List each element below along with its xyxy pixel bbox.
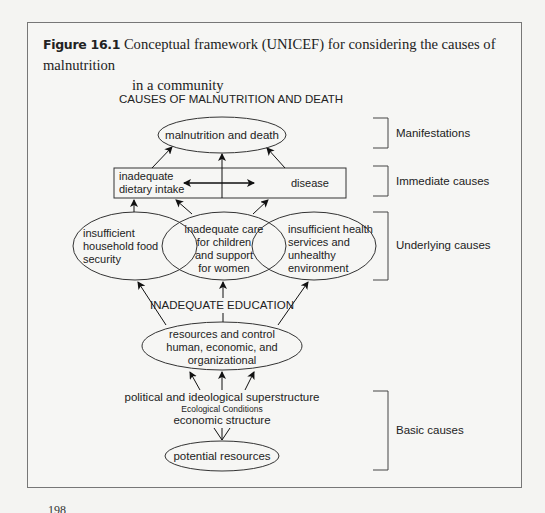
resources-line-2: human, economic, and (166, 341, 277, 353)
arrow-care-to-dietary (176, 200, 192, 214)
level-basic: Basic causes (396, 424, 464, 436)
inadequate-education-label: INADEQUATE EDUCATION (150, 299, 294, 311)
care-line-2: for children (197, 236, 251, 248)
arrow-dietary-to-death (152, 147, 172, 168)
dietary-intake-line1: inadequate (119, 170, 173, 182)
level-immediate: Immediate causes (396, 175, 490, 187)
food-line-2: household food (83, 240, 158, 252)
malnutrition-death-label: malnutrition and death (165, 129, 279, 141)
arrow-potential-left (214, 428, 222, 440)
health-line-2: services and (288, 236, 350, 248)
arrow-potential-right (222, 428, 230, 440)
economic-structure-label: economic structure (173, 414, 270, 426)
bracket-immediate (373, 166, 388, 196)
health-line-3: unhealthy (288, 249, 336, 261)
bracket-underlying (373, 212, 388, 280)
resources-line-3: organizational (188, 354, 257, 366)
health-line-4: environment (288, 262, 349, 274)
disease-label: disease (291, 177, 329, 189)
food-line-1: insufficient (83, 227, 135, 239)
unicef-framework-diagram: CAUSES OF MALNUTRITION AND DEATH malnutr… (0, 0, 545, 513)
bracket-basic (373, 391, 388, 470)
bracket-manifestations (373, 118, 388, 148)
care-line-4: for women (198, 262, 249, 274)
care-line-1: inadequate care (185, 223, 264, 235)
level-underlying: Underlying causes (396, 239, 491, 251)
potential-resources-label: potential resources (173, 450, 270, 462)
dietary-intake-line2: dietary intake (119, 183, 184, 195)
health-line-1: insufficient health (288, 223, 373, 235)
diagram-title: CAUSES OF MALNUTRITION AND DEATH (119, 93, 343, 105)
resources-line-1: resources and control (169, 328, 275, 340)
arrow-super-right (245, 372, 254, 390)
arrow-disease-to-death (267, 148, 285, 168)
care-line-3: and support (195, 249, 253, 261)
food-line-3: security (83, 253, 121, 265)
page-number: 198 (48, 503, 66, 513)
superstructure-label: political and ideological superstructure (125, 391, 320, 403)
arrow-care-to-disease (253, 200, 268, 214)
arrow-super-left (190, 372, 200, 390)
ecological-conditions-label: Ecological Conditions (181, 404, 262, 414)
level-manifestations: Manifestations (396, 127, 470, 139)
